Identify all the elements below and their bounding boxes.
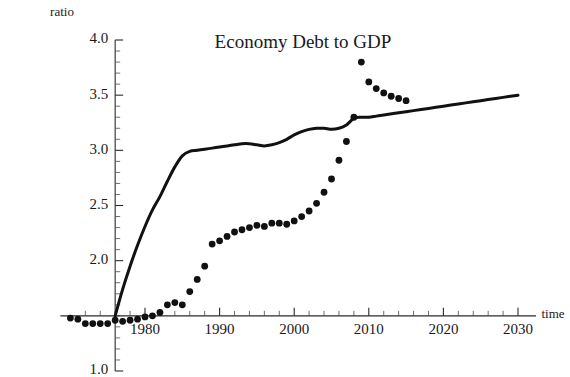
x-tick-label: 2030 <box>503 321 533 337</box>
data-point <box>350 114 357 121</box>
data-point <box>358 59 365 66</box>
data-point <box>112 317 119 324</box>
data-point <box>328 176 335 183</box>
data-point <box>209 241 216 248</box>
data-point <box>239 226 246 233</box>
data-point <box>395 95 402 102</box>
x-tick-label: 1980 <box>130 321 160 337</box>
data-point <box>231 229 238 236</box>
x-axis-label: time <box>541 306 564 321</box>
data-point <box>298 213 305 220</box>
data-point <box>82 320 89 327</box>
y-tick-label: 4.0 <box>89 30 108 46</box>
data-point <box>104 320 111 327</box>
data-point <box>276 220 283 227</box>
data-point <box>283 221 290 228</box>
data-point <box>365 79 372 86</box>
data-point <box>373 85 380 92</box>
data-point <box>224 233 231 240</box>
y-tick-label: 1.0 <box>89 361 108 377</box>
data-point <box>336 157 343 164</box>
data-point <box>74 316 81 323</box>
data-point <box>403 97 410 104</box>
data-point <box>89 320 96 327</box>
data-point <box>149 312 156 319</box>
data-point <box>254 222 261 229</box>
x-axis <box>60 308 536 316</box>
data-point <box>261 223 268 230</box>
data-point <box>321 189 328 196</box>
data-point <box>246 224 253 231</box>
data-point <box>343 138 350 145</box>
data-point <box>186 288 193 295</box>
data-point <box>67 315 74 322</box>
data-point <box>142 314 149 321</box>
data-point <box>157 309 164 316</box>
x-tick-label: 1990 <box>205 321 235 337</box>
data-point <box>201 263 208 270</box>
data-point <box>388 93 395 100</box>
y-axis-label: ratio <box>50 4 74 19</box>
data-point <box>179 301 186 308</box>
x-tick-label: 2020 <box>428 321 458 337</box>
data-point <box>306 208 313 215</box>
data-point <box>134 316 141 323</box>
data-point <box>216 237 223 244</box>
x-tick-label: 2010 <box>354 321 384 337</box>
data-point <box>380 90 387 97</box>
data-point <box>313 200 320 207</box>
y-tick-label: 2.0 <box>89 251 108 267</box>
chart-title: Economy Debt to GDP <box>215 31 392 52</box>
data-point <box>127 317 134 324</box>
data-point <box>291 218 298 225</box>
y-tick-label: 2.5 <box>89 196 108 212</box>
data-point <box>119 318 126 325</box>
data-point <box>97 320 104 327</box>
y-tick-label: 3.5 <box>89 86 108 102</box>
x-tick-label: 2000 <box>279 321 309 337</box>
economy-debt-to-gdp-chart: 1.02.02.53.03.54.0 198019902000201020202… <box>0 0 570 377</box>
x-axis-tick-labels: 198019902000201020202030 <box>130 321 533 337</box>
data-point <box>171 299 178 306</box>
data-point <box>268 220 275 227</box>
data-point <box>164 301 171 308</box>
data-points-series <box>67 59 410 327</box>
y-tick-label: 3.0 <box>89 141 108 157</box>
data-point <box>194 276 201 283</box>
chart-container: 1.02.02.53.03.54.0 198019902000201020202… <box>0 0 570 377</box>
